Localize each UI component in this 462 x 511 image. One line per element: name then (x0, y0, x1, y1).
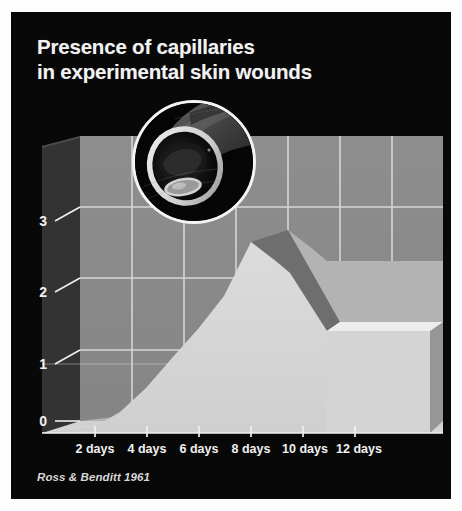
y-tick-label-0: 0 (39, 413, 47, 429)
chart-panel: 0 1 2 3 2 days 4 days 6 days 8 days 10 d… (11, 12, 451, 499)
series-plateau-side (430, 322, 443, 433)
capillary-micrograph-inset (132, 100, 256, 224)
source-credit: Ross & Benditt 1961 (37, 471, 150, 483)
x-tick-label-4-days: 4 days (128, 442, 167, 456)
figure-root: 0 1 2 3 2 days 4 days 6 days 8 days 10 d… (0, 0, 462, 511)
series-plateau-top (327, 322, 443, 331)
x-tick-label-12-days: 12 days (336, 442, 382, 456)
capillary-micrograph-image (135, 103, 253, 221)
y-tick-label-3: 3 (39, 213, 47, 229)
series-plateau-front (327, 331, 430, 433)
x-axis-labels: 2 days 4 days 6 days 8 days 10 days 12 d… (76, 442, 382, 456)
x-tick-label-2-days: 2 days (76, 442, 115, 456)
area-chart: 0 1 2 3 2 days 4 days 6 days 8 days 10 d… (11, 12, 451, 499)
x-tick-label-10-days: 10 days (282, 442, 328, 456)
x-tick-label-6-days: 6 days (180, 442, 219, 456)
y-tick-label-2: 2 (39, 284, 47, 300)
x-tick-label-8-days: 8 days (232, 442, 271, 456)
page-title: Presence of capillaries in experimental … (37, 34, 312, 84)
y-tick-label-1: 1 (39, 356, 47, 372)
plot-left-wall (42, 136, 80, 433)
